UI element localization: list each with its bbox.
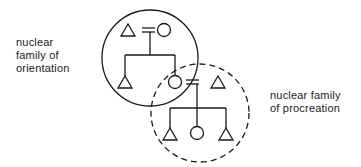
male-triangle-icon xyxy=(211,76,225,88)
male-triangle-icon xyxy=(121,24,135,36)
female-circle-icon xyxy=(169,76,182,89)
male-triangle-icon xyxy=(219,128,233,140)
kinship-diagram xyxy=(0,0,361,167)
male-triangle-icon xyxy=(163,128,177,140)
orientation-boundary-circle xyxy=(102,10,198,106)
female-circle-icon xyxy=(191,127,204,140)
female-circle-icon xyxy=(158,24,171,37)
male-triangle-icon xyxy=(118,76,132,88)
procreation-boundary-dashed-circle xyxy=(151,64,249,162)
